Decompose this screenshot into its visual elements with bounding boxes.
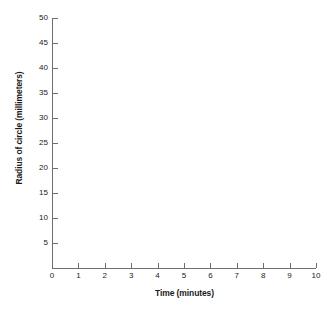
- y-tick-label: 35: [22, 89, 48, 97]
- y-tick-mark: [53, 43, 58, 44]
- y-tick-mark: [53, 93, 58, 94]
- y-tick-label: 30: [22, 114, 48, 122]
- x-tick-mark: [78, 263, 79, 268]
- y-tick-label: 15: [22, 189, 48, 197]
- x-tick-label: 2: [95, 272, 115, 280]
- y-tick-mark: [53, 193, 58, 194]
- y-tick-mark: [53, 18, 58, 19]
- y-tick-label: 10: [22, 214, 48, 222]
- x-tick-mark: [237, 263, 238, 268]
- plot-area: [52, 18, 317, 268]
- y-tick-label: 45: [22, 39, 48, 47]
- x-tick-mark: [290, 263, 291, 268]
- x-tick-mark: [158, 263, 159, 268]
- x-tick-label: 7: [227, 272, 247, 280]
- y-tick-mark: [53, 218, 58, 219]
- x-tick-label: 9: [280, 272, 300, 280]
- x-tick-mark: [210, 263, 211, 268]
- x-tick-label: 1: [68, 272, 88, 280]
- y-tick-mark: [53, 118, 58, 119]
- x-tick-label: 4: [148, 272, 168, 280]
- x-tick-mark: [316, 263, 317, 268]
- chart-figure: Radius of circle (millimeters) Time (min…: [0, 0, 329, 313]
- y-tick-label: 5: [22, 239, 48, 247]
- x-tick-label: 0: [42, 272, 62, 280]
- x-tick-label: 5: [174, 272, 194, 280]
- y-tick-label: 50: [22, 14, 48, 22]
- x-tick-label: 8: [253, 272, 273, 280]
- x-tick-mark: [263, 263, 264, 268]
- y-tick-mark: [53, 143, 58, 144]
- y-tick-label: 25: [22, 139, 48, 147]
- y-tick-mark: [53, 243, 58, 244]
- x-tick-mark: [131, 263, 132, 268]
- y-tick-label: 40: [22, 64, 48, 72]
- x-axis-title: Time (minutes): [52, 288, 317, 298]
- y-tick-label: 20: [22, 164, 48, 172]
- x-tick-label: 3: [121, 272, 141, 280]
- y-tick-mark: [53, 168, 58, 169]
- y-tick-mark: [53, 68, 58, 69]
- x-tick-mark: [105, 263, 106, 268]
- x-tick-mark: [184, 263, 185, 268]
- x-axis-line: [52, 268, 316, 269]
- x-tick-label: 6: [200, 272, 220, 280]
- x-tick-label: 10: [306, 272, 326, 280]
